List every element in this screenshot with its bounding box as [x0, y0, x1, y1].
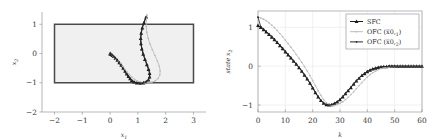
- timeseries-xtick-label: 20: [308, 116, 318, 125]
- timeseries-ytick-label: −1: [242, 101, 253, 110]
- timeseries-marker: [274, 38, 276, 40]
- timeseries-marker: [353, 83, 355, 85]
- timeseries-marker: [312, 80, 314, 82]
- phase-plot-marker: [129, 74, 131, 76]
- phase-plot-marker: [159, 70, 161, 72]
- timeseries-marker: [350, 86, 352, 88]
- timeseries-xaxis-label: k: [338, 131, 342, 138]
- timeseries-marker: [260, 17, 262, 19]
- timeseries-marker: [306, 70, 308, 72]
- timeseries-xtick-label: 60: [417, 116, 427, 125]
- timeseries-marker: [407, 65, 409, 67]
- phase-plot-ytick-label: −1: [26, 78, 37, 87]
- timeseries-marker: [394, 65, 396, 67]
- timeseries-marker: [416, 65, 418, 67]
- timeseries-xtick-label: 40: [363, 116, 373, 125]
- phase-plot-marker: [147, 82, 149, 84]
- timeseries-marker: [328, 104, 330, 106]
- timeseries-marker: [334, 105, 336, 107]
- timeseries-marker: [410, 65, 412, 67]
- timeseries-marker: [287, 43, 289, 45]
- phase-plot-marker: [133, 81, 135, 83]
- phase-plot-marker: [120, 64, 122, 66]
- phase-plot-xaxis-label: x1: [121, 131, 128, 139]
- phase-plot-marker: [146, 14, 148, 16]
- timeseries-marker: [421, 65, 423, 67]
- phase-plot-marker: [158, 65, 160, 67]
- phase-plot-marker: [149, 43, 151, 45]
- timeseries-marker: [287, 53, 289, 55]
- timeseries-marker: [315, 91, 317, 93]
- phase-plot-marker: [155, 80, 157, 82]
- phase-plot-marker: [146, 32, 148, 34]
- timeseries-marker: [347, 89, 349, 91]
- timeseries-marker: [256, 23, 260, 27]
- phase-plot-marker: [131, 76, 133, 78]
- timeseries-marker: [386, 66, 388, 68]
- phase-plot-marker: [114, 57, 116, 59]
- timeseries-marker: [304, 74, 306, 76]
- timeseries-marker: [257, 16, 259, 18]
- timeseries-marker: [364, 72, 366, 74]
- timeseries-marker: [265, 30, 267, 32]
- figure-container: −2−10123 10−1−2 x1 x2 0102030405060 10−1…: [0, 0, 433, 139]
- timeseries-marker: [325, 104, 327, 106]
- timeseries-marker: [309, 75, 311, 77]
- timeseries-marker: [391, 65, 393, 67]
- phase-plot-xtick-label: 2: [163, 116, 168, 125]
- phase-plot-marker: [122, 67, 124, 69]
- timeseries-marker: [325, 102, 327, 104]
- phase-plot-marker: [154, 54, 156, 56]
- timeseries-marker: [375, 70, 377, 72]
- timeseries-marker: [293, 50, 295, 52]
- timeseries-marker: [260, 26, 262, 28]
- timeseries-marker: [323, 99, 325, 101]
- timeseries-xtick-label: 0: [256, 116, 261, 125]
- timeseries-marker: [364, 79, 366, 81]
- timeseries-marker: [298, 58, 300, 60]
- timeseries-marker: [331, 104, 333, 106]
- phase-plot-marker: [127, 75, 129, 77]
- legend-marker: [356, 41, 358, 43]
- timeseries-yaxis-label: state x2: [224, 49, 233, 73]
- timeseries-marker: [366, 70, 368, 72]
- timeseries-marker: [353, 91, 355, 93]
- phase-plot-marker: [134, 78, 136, 80]
- timeseries-marker: [336, 101, 338, 103]
- timeseries-marker: [265, 20, 267, 22]
- phase-plot-marker: [139, 82, 141, 84]
- timeseries-marker: [366, 76, 368, 78]
- phase-plot-marker: [145, 20, 147, 22]
- timeseries-marker: [345, 99, 347, 101]
- timeseries-marker: [372, 68, 374, 70]
- phase-plot-marker: [149, 73, 151, 75]
- phase-plot-ytick-label: 1: [32, 20, 37, 29]
- phase-plot-marker: [113, 56, 115, 58]
- timeseries-marker: [282, 36, 284, 38]
- timeseries-marker: [323, 102, 325, 104]
- timeseries-plot-panel: 0102030405060 10−1 k state x2 SFCOFC (x̅…: [216, 0, 433, 139]
- phase-plot-marker: [140, 38, 142, 40]
- timeseries-marker: [334, 103, 336, 105]
- timeseries-ytick-label: 0: [248, 62, 253, 71]
- timeseries-marker: [356, 80, 358, 82]
- phase-plot-marker: [136, 80, 138, 82]
- legend-label: SFC: [367, 18, 381, 26]
- timeseries-marker: [377, 66, 379, 68]
- phase-plot-marker: [118, 62, 120, 64]
- timeseries-marker: [320, 94, 322, 96]
- timeseries-marker: [295, 54, 297, 56]
- timeseries-xtick-labels: 0102030405060: [256, 116, 427, 125]
- timeseries-marker: [290, 46, 292, 48]
- phase-plot-marker: [124, 70, 126, 72]
- timeseries-marker: [312, 87, 314, 89]
- timeseries-marker: [342, 96, 344, 98]
- legend[interactable]: SFCOFC (x̅0,1)OFC (x̅0,2): [346, 14, 419, 49]
- phase-plot-xtick-labels: −2−10123: [49, 116, 196, 125]
- timeseries-marker: [276, 41, 278, 43]
- timeseries-marker: [293, 60, 295, 62]
- phase-plot-marker: [147, 37, 149, 39]
- timeseries-marker: [358, 85, 360, 87]
- timeseries-marker: [271, 24, 273, 26]
- phase-plot-marker: [136, 82, 138, 84]
